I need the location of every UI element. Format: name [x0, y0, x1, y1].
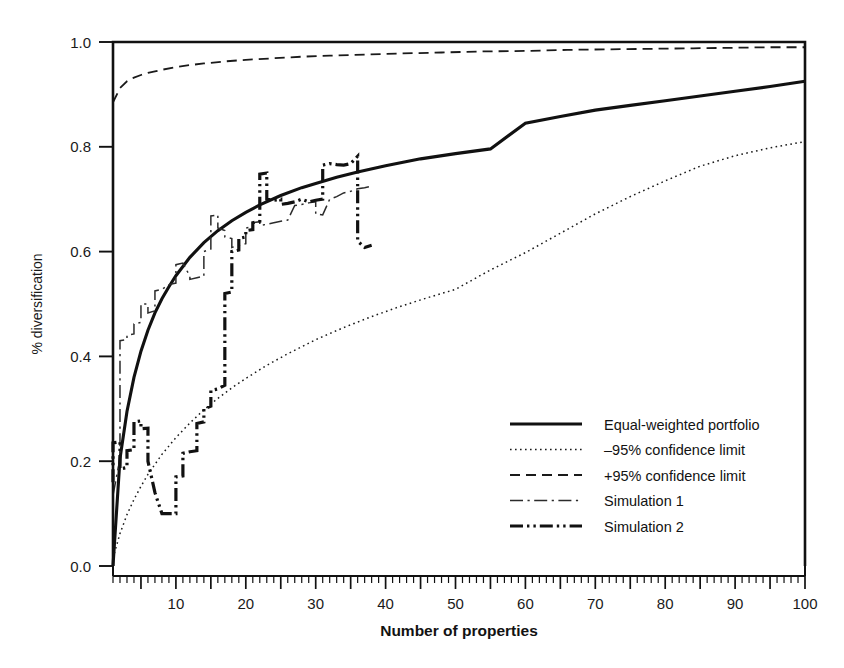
- y-axis-title: % diversification: [29, 253, 45, 354]
- series-95-confidence-limit: [113, 142, 805, 559]
- series-layer: [113, 47, 805, 566]
- legend-label: Simulation 2: [604, 519, 684, 535]
- x-tick-label: 60: [517, 595, 534, 612]
- series-simulation-1: [113, 186, 372, 495]
- plot-frame-layer: [113, 42, 805, 566]
- x-tick-label: 90: [727, 595, 744, 612]
- x-tick-label: 70: [587, 595, 604, 612]
- chart-svg: 1020304050607080901000.00.20.40.60.81.0N…: [0, 0, 844, 668]
- x-axis-title: Number of properties: [380, 622, 538, 639]
- chart-figure: 1020304050607080901000.00.20.40.60.81.0N…: [0, 0, 844, 668]
- y-tick-label: 0.6: [70, 243, 91, 260]
- legend-label: Simulation 1: [604, 493, 684, 509]
- x-tick-label: 80: [657, 595, 674, 612]
- x-tick-label: 40: [377, 595, 394, 612]
- x-tick-label: 30: [307, 595, 324, 612]
- y-tick-label: 1.0: [70, 34, 91, 51]
- x-tick-label: 100: [792, 595, 817, 612]
- y-tick-label: 0.0: [70, 558, 91, 575]
- series-95-confidence-limit: [113, 47, 805, 102]
- x-tick-label: 50: [447, 595, 464, 612]
- y-tick-label: 0.4: [70, 348, 91, 365]
- x-tick-label: 10: [168, 595, 185, 612]
- series-equal-weighted-portfolio: [113, 81, 805, 566]
- legend-label: –95% confidence limit: [604, 442, 745, 458]
- legend-label: Equal-weighted portfolio: [604, 417, 760, 433]
- plot-border: [113, 42, 805, 566]
- legend-layer: Equal-weighted portfolio–95% confidence …: [510, 417, 760, 535]
- series-simulation-2: [113, 156, 372, 513]
- legend-label: +95% confidence limit: [604, 468, 745, 484]
- x-tick-label: 20: [237, 595, 254, 612]
- y-tick-label: 0.8: [70, 138, 91, 155]
- y-tick-label: 0.2: [70, 453, 91, 470]
